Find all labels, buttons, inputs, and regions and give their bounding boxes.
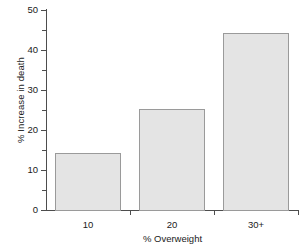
y-axis-tick-label: 30 (8, 85, 38, 95)
y-axis-tick-label: 50 (8, 5, 38, 15)
y-axis-line (46, 9, 47, 211)
y-axis-tick-major (41, 90, 46, 91)
bar (55, 153, 121, 211)
x-axis-tick-label: 20 (142, 219, 202, 230)
y-axis-tick-label: 10 (8, 165, 38, 175)
bar (139, 109, 205, 211)
y-axis-tick-minor (42, 190, 46, 191)
y-axis-tick-label: 0 (8, 205, 38, 215)
y-axis-tick-major (41, 10, 46, 11)
bar-chart: % Increase in death 01020304050 102030+ … (0, 0, 305, 250)
bar (223, 33, 289, 211)
y-axis-tick-major (41, 170, 46, 171)
x-axis-tick-label: 10 (58, 219, 118, 230)
y-axis-tick-major (41, 210, 46, 211)
y-axis-tick-major (41, 130, 46, 131)
y-axis-tick-minor (42, 110, 46, 111)
y-axis-tick-minor (42, 30, 46, 31)
y-axis-tick-label: 40 (8, 45, 38, 55)
x-axis-tick (130, 210, 131, 215)
y-axis-tick-label: 20 (8, 125, 38, 135)
y-axis-tick-minor (42, 150, 46, 151)
y-axis-tick-minor (42, 70, 46, 71)
y-axis-tick-major (41, 50, 46, 51)
x-axis-title: % Overweight (46, 233, 299, 244)
x-axis-tick-label: 30+ (226, 219, 286, 230)
x-axis-tick (298, 210, 299, 215)
x-axis-tick (214, 210, 215, 215)
